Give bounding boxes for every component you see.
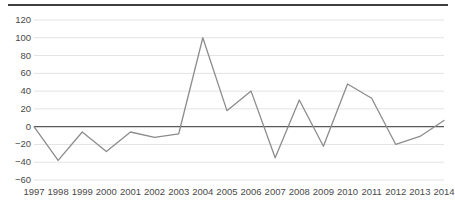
x-tick-label: 2011	[361, 187, 381, 197]
x-axis-tick-labels: 1997199819992000200120022003200420052006…	[34, 187, 444, 201]
x-tick-label: 2004	[192, 187, 213, 197]
x-tick-label: 2008	[289, 187, 310, 197]
x-tick-label: 2012	[385, 187, 406, 197]
chart-svg	[34, 20, 444, 180]
x-tick-label: 2003	[168, 187, 189, 197]
plot-area	[34, 20, 444, 180]
y-tick-label: 120	[3, 15, 31, 25]
y-tick-label: 20	[3, 104, 31, 114]
x-tick-label: 2005	[216, 187, 237, 197]
x-tick-label: 2013	[409, 187, 430, 197]
x-tick-label: 2014	[433, 187, 454, 197]
x-tick-label: 2007	[265, 187, 286, 197]
y-tick-label: −40	[3, 157, 31, 167]
x-tick-label: 2000	[96, 187, 117, 197]
y-axis-tick-labels: 120100806040200−20−40−60	[0, 20, 31, 180]
x-tick-label: 1998	[48, 187, 69, 197]
y-tick-label: 60	[3, 69, 31, 79]
x-tick-label: 2010	[337, 187, 358, 197]
x-tick-label: 2001	[120, 187, 141, 197]
y-tick-label: 80	[3, 51, 31, 61]
line-chart: 120100806040200−20−40−60 199719981999200…	[0, 0, 455, 206]
data-series-line	[34, 38, 444, 161]
top-divider-rule	[8, 4, 448, 6]
x-tick-label: 2006	[240, 187, 261, 197]
y-tick-label: 40	[3, 86, 31, 96]
x-tick-label: 2009	[313, 187, 334, 197]
y-tick-label: 0	[3, 122, 31, 132]
gridlines-group	[34, 20, 444, 180]
y-tick-label: −20	[3, 140, 31, 150]
x-tick-label: 1999	[72, 187, 93, 197]
x-tick-label: 1997	[23, 187, 44, 197]
y-tick-label: 100	[3, 33, 31, 43]
y-tick-label: −60	[3, 175, 31, 185]
x-tick-label: 2002	[144, 187, 165, 197]
